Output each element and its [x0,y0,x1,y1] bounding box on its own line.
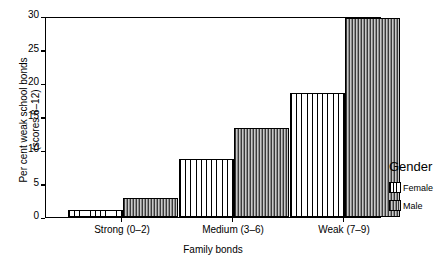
x-axis-label-weak: Weak (7–9) [284,224,404,235]
bar-medium-female [179,159,234,217]
legend-item-male[interactable]: Male [389,200,447,211]
legend: Gender Female Male [389,160,447,218]
legend-title: Gender [389,160,447,174]
bar-weak-female [290,93,345,217]
bar-strong-female [68,210,123,217]
legend-swatch-male-icon [389,200,401,211]
legend-label-female: Female [403,183,433,193]
bar-medium-male [234,128,289,217]
x-axis-title: Family bonds [45,244,381,255]
bar-chart-figure: 0 5 10 15 20 25 30 Per cent weak school … [0,0,447,269]
x-axis-label-medium: Medium (3–6) [173,224,293,235]
x-tick-mark-strong [121,218,122,222]
y-axis-title-line-1: Per cent weak school bonds [18,20,30,220]
legend-item-female[interactable]: Female [389,182,447,193]
x-tick-mark-medium [232,218,233,222]
y-axis-title-line-2: (scores 8–12) [30,20,42,220]
plot-area [45,17,381,218]
legend-label-male: Male [403,201,423,211]
x-tick-mark-weak [343,218,344,222]
y-axis-title: Per cent weak school bonds (scores 8–12) [18,20,42,220]
legend-swatch-female-icon [389,182,401,193]
y-tick-label: 30 [28,10,39,20]
bar-strong-male [123,198,178,217]
x-axis-label-strong: Strong (0–2) [62,224,182,235]
